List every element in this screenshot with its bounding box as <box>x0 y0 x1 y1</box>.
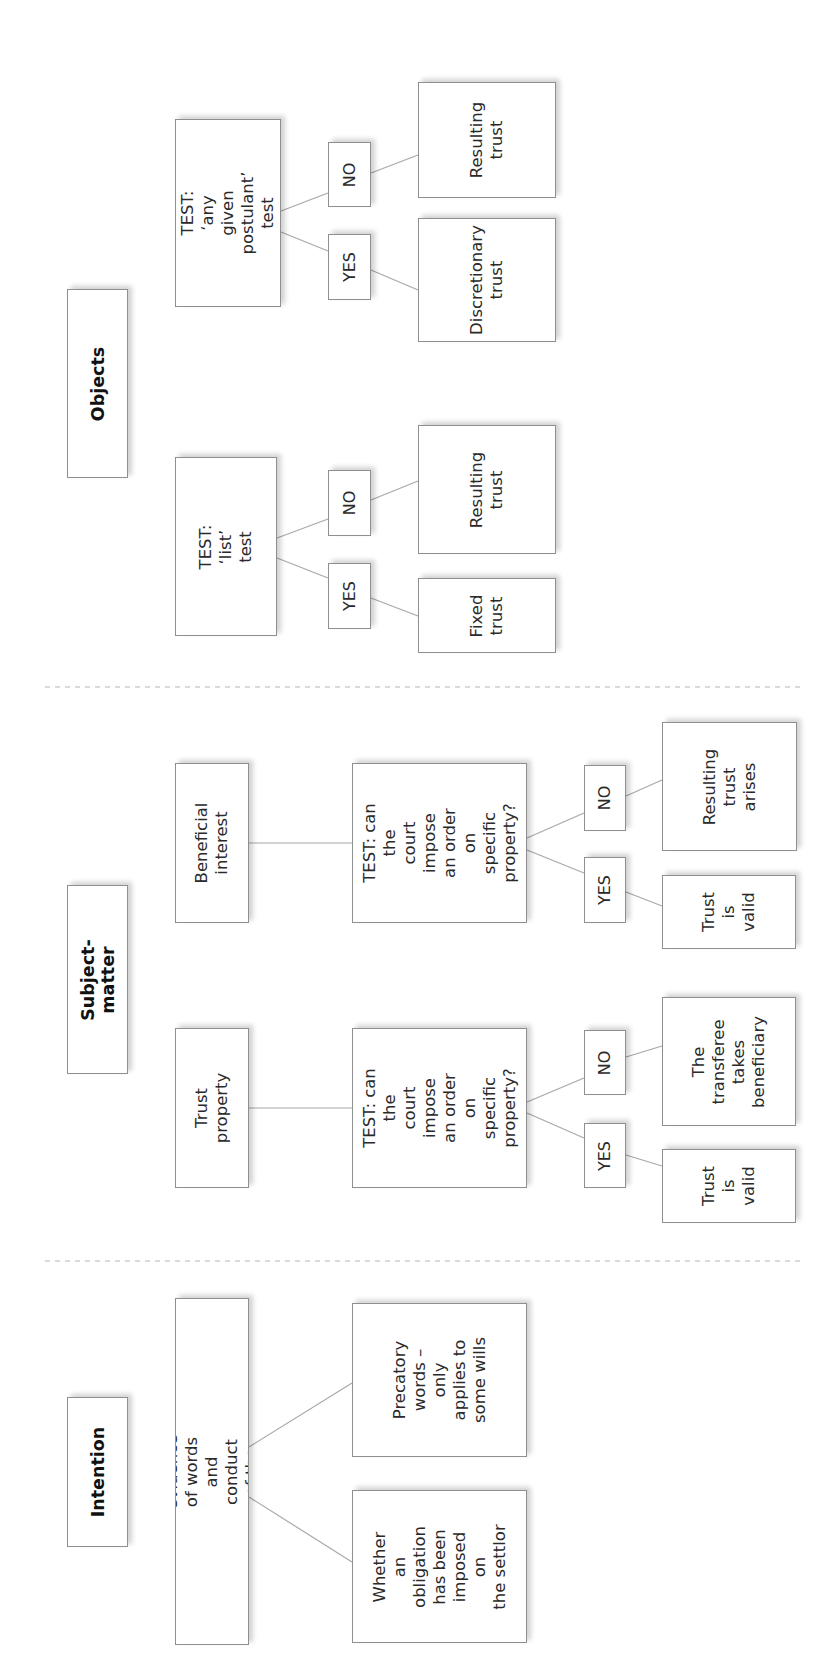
beneficial-interest-test-box: TEST: can the court impose an order on s… <box>352 763 527 923</box>
any-given-yes-outcome: Discretionary trust <box>418 218 556 342</box>
objects-header: Objects <box>67 289 128 478</box>
yes-label: YES <box>595 875 615 905</box>
no-label: NO <box>595 1050 615 1075</box>
beneficial-interest-yes-outcome: Trust is valid <box>662 875 796 949</box>
resulting-trust-text: Resulting trust <box>467 451 507 528</box>
no-label: NO <box>340 491 360 516</box>
trust-property-no-box: NO <box>584 1030 626 1095</box>
trust-requirements-diagram: Intention TEST: evidence of words and co… <box>0 0 840 1680</box>
beneficial-interest-no-outcome: Resulting trust arises <box>662 722 797 851</box>
trust-property-box: Trust property <box>175 1028 249 1188</box>
yes-label: YES <box>595 1140 615 1170</box>
list-test-yes-box: YES <box>328 563 371 629</box>
trust-property-no-outcome: The transferee takes beneficiary <box>662 997 796 1126</box>
beneficial-interest-yes-box: YES <box>584 857 626 923</box>
any-given-yes-box: YES <box>328 234 371 300</box>
trust-property-yes-outcome: Trust is valid <box>662 1149 796 1223</box>
objects-title: Objects <box>88 346 108 420</box>
precatory-text: Precatory words – only applies to some w… <box>390 1337 490 1423</box>
beneficial-interest-no-box: NO <box>584 765 626 831</box>
list-test-text: TEST: ‘list’ test <box>196 522 256 572</box>
intention-title: Intention <box>88 1427 108 1518</box>
intention-test-text: TEST: evidence of words and conduct of t… <box>175 1434 249 1509</box>
list-test-yes-outcome: Fixed trust <box>418 578 556 653</box>
list-test-no-outcome: Resulting trust <box>418 425 556 554</box>
beneficial-interest-test-text: TEST: can the court impose an order on s… <box>360 800 520 887</box>
resulting-trust-text: Resulting trust <box>467 102 507 179</box>
obligation-text: Whether an obligation has been imposed o… <box>370 1523 510 1610</box>
subject-matter-header: Subject-matter <box>67 885 128 1074</box>
intention-header: Intention <box>67 1397 128 1547</box>
trust-property-test-box: TEST: can the court impose an order on s… <box>352 1028 527 1188</box>
transferee-text: The transferee takes beneficiary <box>689 1016 769 1108</box>
beneficial-interest-text: Beneficial interest <box>192 803 232 884</box>
list-test-box: TEST: ‘list’ test <box>175 457 277 636</box>
fixed-trust-text: Fixed trust <box>467 594 507 637</box>
trust-valid-text: Trust is valid <box>699 1166 759 1206</box>
trust-valid-text: Trust is valid <box>699 892 759 932</box>
intention-outcome-precatory: Precatory words – only applies to some w… <box>352 1303 527 1457</box>
trust-property-test-text: TEST: can the court impose an order on s… <box>360 1065 520 1152</box>
yes-label: YES <box>340 252 360 282</box>
any-given-postulant-test-box: TEST: ‘any given postulant’ test <box>175 119 281 307</box>
intention-outcome-obligation: Whether an obligation has been imposed o… <box>352 1490 527 1643</box>
trust-property-yes-box: YES <box>584 1123 626 1188</box>
no-label: NO <box>595 786 615 811</box>
subject-matter-title: Subject-matter <box>78 939 118 1020</box>
intention-test-box: TEST: evidence of words and conduct of t… <box>175 1298 249 1645</box>
beneficial-interest-box: Beneficial interest <box>175 763 249 923</box>
resulting-trust-arises-text: Resulting trust arises <box>700 748 760 825</box>
yes-label: YES <box>340 581 360 611</box>
any-given-no-box: NO <box>328 142 371 207</box>
any-given-no-outcome: Resulting trust <box>418 82 556 198</box>
trust-property-text: Trust property <box>192 1073 232 1144</box>
any-given-postulant-test-text: TEST: ‘any given postulant’ test <box>178 172 278 255</box>
no-label: NO <box>340 162 360 187</box>
list-test-no-box: NO <box>328 470 371 536</box>
discretionary-trust-text: Discretionary trust <box>467 225 507 335</box>
